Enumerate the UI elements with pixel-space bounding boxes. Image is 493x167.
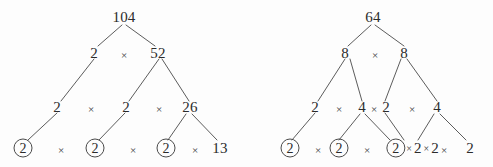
right-leaf-cluster-2x2x2: 2 × 2 × 2 <box>386 139 439 158</box>
edge-right-64-8b <box>375 25 404 46</box>
edge-right-8b-4 <box>407 59 437 101</box>
right-root-node: 64 <box>365 10 380 25</box>
right-l3-operator-1: × <box>315 145 321 156</box>
left-l2-node-26: 26 <box>182 100 197 115</box>
right-l1-node-8b: 8 <box>400 46 408 61</box>
edge-left-26-13 <box>192 114 217 140</box>
edge-right-64-8a <box>348 25 371 46</box>
right-l3-operator-3: × <box>441 145 447 156</box>
right-l1-operator: × <box>372 50 378 61</box>
right-l2-node-4a: 4 <box>358 100 366 115</box>
left-l1-operator: × <box>121 50 127 61</box>
edge-right-4a-circ2c <box>365 114 390 140</box>
edge-right-8a-2 <box>318 59 345 101</box>
left-leaf-prime-2a: 2 <box>14 139 33 158</box>
edge-left-52-26 <box>162 59 189 101</box>
factor-trees-figure: 104 2 × 52 2 × 2 × 26 2 × 2 × 2 × 13 64 … <box>0 0 493 167</box>
edge-right-4b-2e <box>418 114 434 140</box>
left-leaf-prime-2c: 2 <box>157 139 176 158</box>
edge-left-2a-circ2a <box>28 113 57 140</box>
left-l2-node-2b: 2 <box>122 100 130 115</box>
right-l3-operator-2: × <box>364 145 370 156</box>
edge-right-4b-2f <box>440 114 466 140</box>
left-l1-node-52: 52 <box>150 46 165 61</box>
right-l2-operator-3: × <box>409 104 415 115</box>
edge-right-4a-circ2b <box>339 114 360 140</box>
right-l2-node-2b: 2 <box>382 100 390 115</box>
edge-left-2b-circ2b <box>99 113 125 140</box>
edge-left-104-2 <box>98 25 122 46</box>
left-l3-operator-1: × <box>58 145 64 156</box>
right-l2-node-4b: 4 <box>433 100 441 115</box>
left-leaf-prime-13: 13 <box>212 141 227 156</box>
left-l2-operator-2: × <box>156 104 162 115</box>
edge-left-104-52 <box>126 25 155 46</box>
edge-right-8a-4 <box>350 59 362 101</box>
right-leaf-prime-2d: 2 <box>413 141 423 156</box>
edge-left-26-circ2c <box>168 114 186 140</box>
right-l2-node-2a: 2 <box>311 100 319 115</box>
edge-right-2a-circ2a <box>292 113 315 140</box>
left-l1-node-2: 2 <box>90 46 98 61</box>
left-l2-operator-1: × <box>88 104 94 115</box>
right-leaf-prime-2a: 2 <box>281 139 300 158</box>
left-l3-operator-3: × <box>192 145 198 156</box>
right-leaf-prime-2c: 2 <box>386 139 405 158</box>
right-cluster-operator-1: × <box>405 143 413 153</box>
right-leaf-prime-2e: 2 <box>430 141 440 156</box>
right-leaf-prime-2f: 2 <box>466 141 474 156</box>
right-l1-node-8a: 8 <box>341 46 349 61</box>
left-leaf-prime-2b: 2 <box>86 139 105 158</box>
right-l2-operator-1: × <box>336 104 342 115</box>
edge-left-2-2 <box>61 59 94 101</box>
edge-right-2b-2d <box>385 113 404 140</box>
right-cluster-operator-2: × <box>423 143 431 153</box>
edge-right-8b-2 <box>385 59 401 101</box>
left-root-node: 104 <box>112 10 135 25</box>
right-leaf-prime-2b: 2 <box>330 139 349 158</box>
edge-left-52-2 <box>129 59 159 101</box>
left-l3-operator-2: × <box>130 145 136 156</box>
right-l2-operator-2: × <box>371 104 377 115</box>
left-l2-node-2a: 2 <box>53 100 61 115</box>
